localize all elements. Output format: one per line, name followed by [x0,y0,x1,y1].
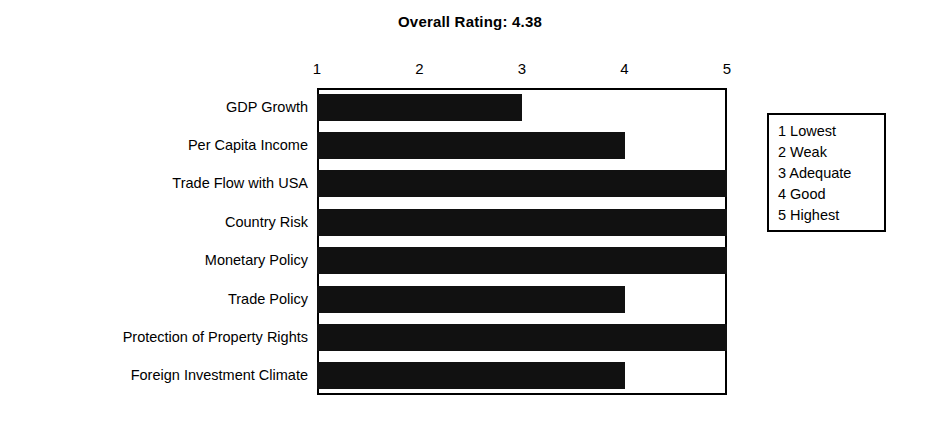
bar [317,94,522,121]
category-label: Trade Flow with USA [0,175,308,192]
category-label: Trade Policy [0,291,308,308]
category-label: Country Risk [0,214,308,231]
page-title: Overall Rating: 4.38 [0,13,930,30]
legend-item: 5 Highest [778,205,884,226]
bar [317,324,727,351]
bar [317,170,727,197]
category-label: Monetary Policy [0,252,308,269]
legend-item: 2 Weak [778,142,884,163]
bar-row [317,132,727,159]
x-axis-tick-label: 4 [620,60,628,78]
legend: 1 Lowest2 Weak3 Adequate4 Good5 Highest [767,113,886,232]
x-axis-ticks: 12345 [317,60,727,88]
bar [317,286,625,313]
bar-row [317,209,727,236]
bar-row [317,286,727,313]
bar-row [317,94,727,121]
bar [317,247,727,274]
x-axis-tick-label: 1 [313,60,321,78]
legend-item: 4 Good [778,184,884,205]
bar-row [317,362,727,389]
bar [317,362,625,389]
bar-series [317,88,727,395]
legend-item: 3 Adequate [778,163,884,184]
x-axis-tick-label: 3 [518,60,526,78]
category-label: Protection of Property Rights [0,329,308,346]
x-axis-tick-label: 2 [415,60,423,78]
bar [317,132,625,159]
legend-item: 1 Lowest [778,121,884,142]
bar-row [317,170,727,197]
category-label: GDP Growth [0,99,308,116]
x-axis-tick-label: 5 [723,60,731,78]
bar [317,209,727,236]
y-axis-category-labels: GDP GrowthPer Capita IncomeTrade Flow wi… [0,88,308,395]
category-label: Foreign Investment Climate [0,367,308,384]
bar-row [317,247,727,274]
category-label: Per Capita Income [0,137,308,154]
bar-row [317,324,727,351]
